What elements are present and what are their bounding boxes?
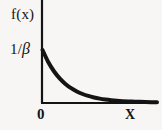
y-axis-tick-label: 1/β <box>10 41 30 57</box>
exponential-decay-curve <box>43 50 158 102</box>
y-tick-prefix: 1/ <box>10 41 22 57</box>
x-axis-label: X <box>125 108 135 122</box>
beta-symbol: β <box>22 40 30 57</box>
exponential-pdf-figure: f(x) 1/β 0 X <box>0 0 162 130</box>
origin-label: 0 <box>37 107 45 122</box>
y-axis-label: f(x) <box>11 7 34 22</box>
